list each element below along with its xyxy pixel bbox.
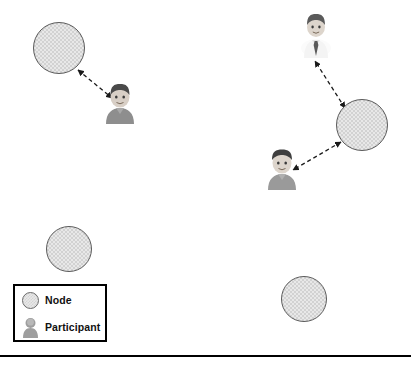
legend-item-participant: Participant (15, 314, 105, 341)
node-mid-left[interactable] (46, 226, 92, 272)
node-right-center[interactable] (336, 99, 388, 151)
node-top-left[interactable] (33, 22, 85, 74)
participant-person-icon (15, 314, 45, 341)
participant-left[interactable] (103, 82, 137, 124)
participant-right-bottom[interactable] (265, 148, 299, 190)
legend-label-node: Node (45, 295, 72, 306)
participant-right-top[interactable] (300, 12, 332, 58)
legend-box: Node Participant (13, 284, 107, 342)
link-node-right-center-participant-right-top (315, 61, 345, 108)
diagram-canvas: Node Participant (0, 0, 411, 366)
bottom-divider (0, 355, 411, 357)
legend-label-participant: Participant (45, 322, 100, 333)
legend-item-node: Node (15, 287, 105, 314)
node-circle-icon (15, 287, 45, 314)
link-node-right-center-participant-right-bottom (293, 142, 341, 170)
node-bottom-right[interactable] (281, 276, 327, 322)
